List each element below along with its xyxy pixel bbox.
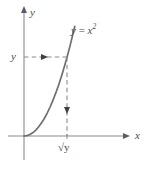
figure-canvas: y x y = x2 y √y (0, 0, 146, 169)
horizontal-dashed-arrowhead (41, 54, 48, 60)
radicand-y: y (64, 141, 70, 153)
curve-label-equals: = (76, 24, 88, 36)
x-axis-arrowhead (123, 133, 130, 139)
curve-equation-label: y = x2 (71, 23, 96, 36)
x-axis-label: x (135, 130, 140, 141)
radical-sign: √ (58, 142, 64, 153)
curve-label-exponent: 2 (93, 22, 97, 31)
vertical-dashed-arrowhead (64, 107, 70, 114)
y-axis-arrowhead (21, 6, 27, 13)
y-axis-label: y (30, 7, 35, 18)
y-value-tick-label: y (11, 51, 16, 62)
sqrt-y-tick-label: √y (58, 142, 70, 153)
